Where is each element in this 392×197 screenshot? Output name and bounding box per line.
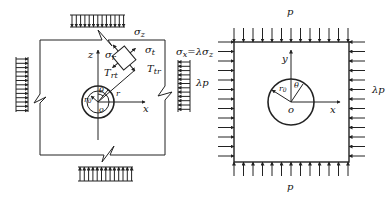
left-figure: σz σx=λσz z x σr σt Trt Ttr r r0 θ o [16,15,214,181]
right-figure: p p λp λp y x r0 θ o [195,6,385,192]
right-pressure-arrows [349,42,365,156]
radius-r-label: r [116,89,121,98]
radius-r0-arrow [91,96,98,102]
x-axis-label: x [330,104,336,115]
theta-label: θ [294,81,299,90]
bottom-load-label: p [287,181,294,192]
top-load-label: p [287,6,294,17]
left-load-distributed-arrows [16,57,28,112]
tau-tr-label: Ttr [147,63,162,76]
theta-label: θ [99,86,104,95]
bottom-pressure-arrows [234,162,348,176]
sigma-r-label: σr [105,49,117,62]
origin-label: o [99,105,104,114]
radius-r0-label: r0 [84,95,92,104]
sigma-z-label: σz [134,26,146,39]
left-load-label: λp [195,77,209,88]
bottom-load-distributed-arrows [78,167,133,181]
top-load-distributed-arrows [70,15,125,27]
y-axis-label: y [281,53,288,64]
diagram-canvas: σz σx=λσz z x σr σt Trt Ttr r r0 θ o p p… [0,0,392,197]
sigma-t-label: σt [145,44,156,57]
sigma-x-label: σx=λσz [176,46,214,59]
radius-r0-label: r0 [279,84,287,93]
z-axis-label: z [87,49,94,60]
right-load-distributed-arrows [178,60,190,112]
x-axis-label: x [143,103,149,114]
tau-rt-label: Trt [104,67,118,80]
top-pressure-arrows [234,28,348,42]
right-load-label: λp [371,84,385,95]
left-pressure-arrows [218,42,234,156]
origin-label: o [288,104,294,115]
